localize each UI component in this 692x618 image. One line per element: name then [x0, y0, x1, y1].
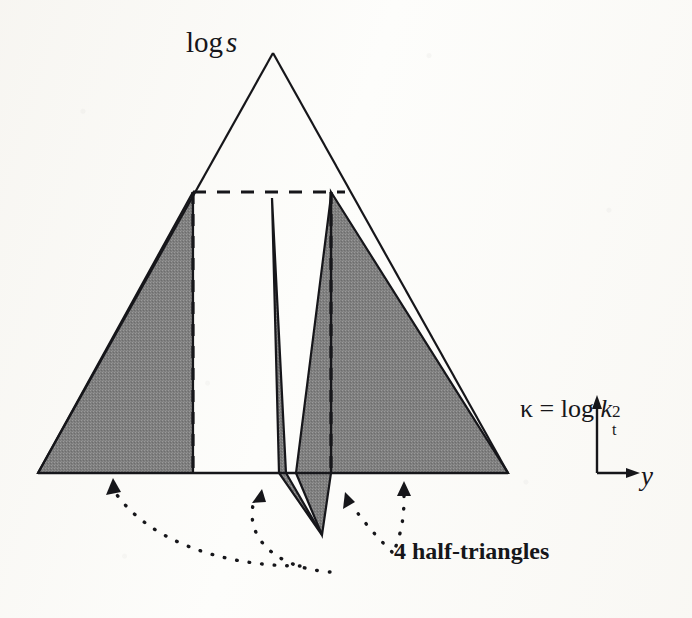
- k-subscript-t: t: [612, 422, 616, 438]
- dotted-arrowhead-right: [397, 481, 411, 496]
- equals-glyph: =: [540, 394, 555, 423]
- horizontal-axis-label-y: y: [641, 463, 653, 490]
- diagram-canvas: [0, 0, 692, 618]
- dotted-arrow-to-center-right-sliver: [352, 505, 392, 552]
- dotted-arrowhead-left: [106, 478, 121, 495]
- figure-root: logs κ = log k2t y 4 half-triangles: [0, 0, 692, 618]
- shaded-center-right-sliver: [296, 196, 331, 535]
- shaded-right-half-triangle: [331, 192, 508, 473]
- apex-label-log-text: log: [186, 26, 223, 58]
- dotted-arrow-to-left-half-triangle: [117, 495, 300, 566]
- dotted-arrowhead-center-left: [252, 489, 266, 503]
- k-italic-glyph: k: [601, 394, 613, 423]
- vertical-axis-label-kappa: κ = log k2t: [520, 396, 628, 422]
- apex-label-log-s: logs: [186, 28, 237, 57]
- log-text: log: [561, 394, 594, 423]
- kappa-glyph: κ: [520, 394, 533, 423]
- annotation-4-half-triangles: 4 half-triangles: [394, 539, 549, 563]
- k-superscript-2: 2: [612, 403, 621, 420]
- dotted-arrowhead-center-right: [343, 492, 355, 509]
- axis-horizontal-arrowhead: [626, 468, 640, 478]
- apex-label-s-italic: s: [223, 26, 237, 58]
